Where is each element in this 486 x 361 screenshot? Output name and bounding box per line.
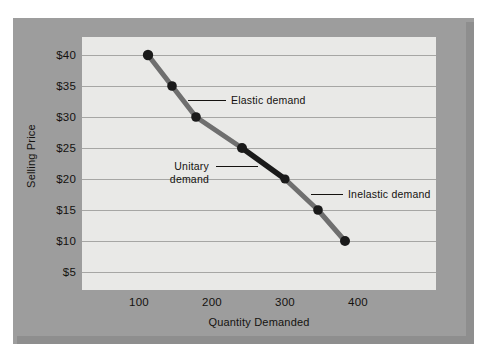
gridline — [82, 55, 436, 56]
unitary-leader-line — [216, 166, 258, 167]
gridline — [82, 117, 436, 118]
y-tick-label: $10 — [16, 235, 76, 247]
gridline — [82, 86, 436, 87]
gridline — [82, 148, 436, 149]
gridline — [82, 210, 436, 211]
annotation-unitary-demand-line1: Unitary — [165, 160, 209, 173]
gridline — [82, 179, 436, 180]
x-axis-title: Quantity Demanded — [82, 316, 436, 328]
elastic-leader-line — [188, 100, 226, 101]
demand-curve-figure: $40 $35 $30 $25 $20 $15 $10 $5 100 200 3… — [0, 0, 486, 361]
y-axis-ticks: $40 $35 $30 $25 $20 $15 $10 $5 — [12, 37, 76, 290]
annotation-unitary-demand-line2: demand — [157, 173, 209, 186]
mat-edge-right — [466, 22, 474, 344]
plot-area — [82, 37, 436, 290]
inelastic-leader-line — [311, 194, 343, 195]
y-tick-label: $40 — [16, 49, 76, 61]
y-tick-label: $5 — [16, 266, 76, 278]
x-tick-label: 400 — [328, 296, 388, 308]
y-tick-label: $35 — [16, 80, 76, 92]
x-axis-ticks: 100 200 300 400 — [82, 296, 436, 316]
mat-edge-bottom — [17, 336, 474, 344]
x-tick-label: 300 — [255, 296, 315, 308]
annotation-inelastic-demand: Inelastic demand — [348, 188, 431, 201]
gridline — [82, 272, 436, 273]
y-axis-title: Selling Price — [25, 96, 37, 216]
x-tick-label: 200 — [182, 296, 242, 308]
gridline — [82, 241, 436, 242]
annotation-elastic-demand: Elastic demand — [231, 94, 306, 107]
x-tick-label: 100 — [109, 296, 169, 308]
